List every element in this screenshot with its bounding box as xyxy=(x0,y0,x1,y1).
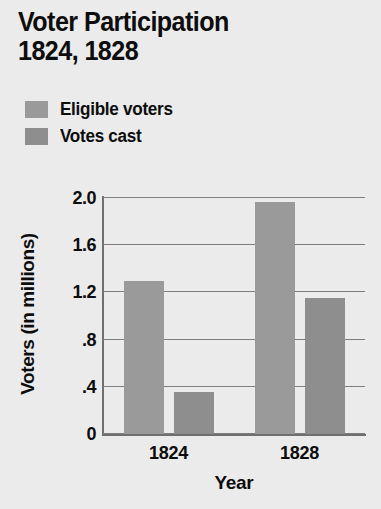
x-axis-title: Year xyxy=(103,472,365,494)
y-tick-label: 2.0 xyxy=(50,188,96,209)
bar-1824-votes-cast[interactable] xyxy=(174,392,214,434)
x-tick-label: 1824 xyxy=(149,443,188,464)
y-tick-label: 0 xyxy=(50,424,96,445)
bar-1828-eligible-voters[interactable] xyxy=(255,202,295,434)
x-tick-label: 1828 xyxy=(280,443,319,464)
gridline xyxy=(103,244,365,245)
y-tick-label: 1.6 xyxy=(50,235,96,256)
x-axis-line xyxy=(102,434,366,436)
y-tick-label: 1.2 xyxy=(50,282,96,303)
y-axis-title: Voters (in millions) xyxy=(17,214,39,414)
bar-chart: Voters (in millions) 2.01.61.2.8.40 1824… xyxy=(0,0,381,509)
bar-1824-eligible-voters[interactable] xyxy=(124,281,164,434)
x-axis-tick-labels: 18241828 xyxy=(103,443,365,469)
plot-area xyxy=(103,198,365,434)
bar-1828-votes-cast[interactable] xyxy=(305,298,345,434)
y-tick-label: .8 xyxy=(50,329,96,350)
y-axis-tick-labels: 2.01.61.2.8.40 xyxy=(44,198,96,434)
y-tick-label: .4 xyxy=(50,376,96,397)
gridline xyxy=(103,197,365,198)
